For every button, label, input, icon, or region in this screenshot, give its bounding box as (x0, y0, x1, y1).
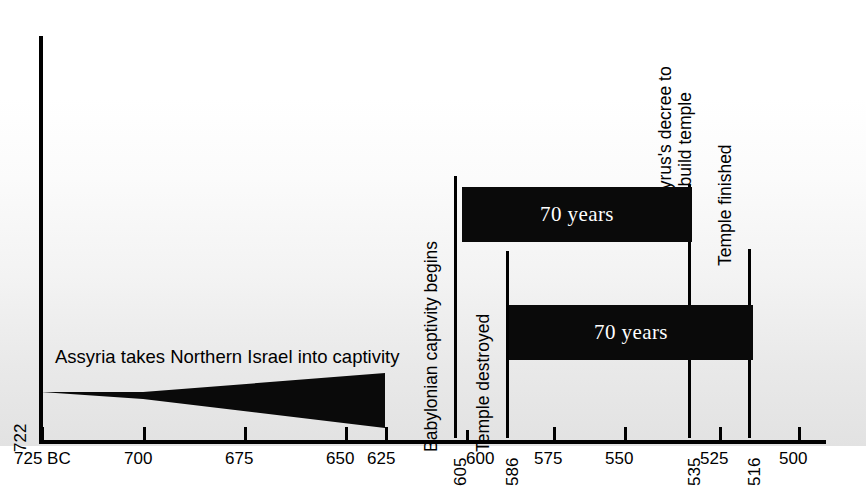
bar-label-captivity: 70 years (540, 202, 614, 227)
timeline-figure: Assyria takes Northern Israel into capti… (0, 0, 866, 492)
tick-label-575: 575 (534, 449, 562, 468)
tick-600 (466, 430, 469, 440)
tick-label-725: 725 BC (14, 449, 71, 468)
tick-675 (244, 427, 247, 440)
tick-label-525: 525 (700, 449, 728, 468)
tick-label-700: 700 (124, 449, 152, 468)
tick-650 (345, 427, 348, 440)
tick-label-650: 650 (326, 449, 354, 468)
tick-725 (41, 427, 44, 440)
event-label-temple-destroyed: Temple destroyed (473, 314, 493, 452)
bar-label-temple: 70 years (594, 320, 668, 345)
tick-525 (719, 427, 722, 440)
event-label-cyrus-decree-line1: Cyrus's decree to (655, 66, 675, 202)
event-label-temple-finished: Temple finished (715, 144, 735, 266)
tick-label-600: 600 (466, 449, 494, 468)
tick-500 (798, 427, 801, 440)
tick-label-625: 625 (367, 449, 395, 468)
tick-label-675: 675 (225, 449, 253, 468)
tick-label-535: 535 (685, 458, 704, 486)
tick-label-500: 500 (779, 449, 807, 468)
event-label-cyrus-decree-line2: rebuild temple (675, 92, 695, 202)
tick-label-550: 550 (605, 449, 633, 468)
tick-label-586: 586 (503, 458, 522, 486)
assyria-captivity-wedge (39, 370, 389, 432)
bar-temple-70-years: 70 years (509, 305, 753, 360)
tick-625 (385, 427, 388, 440)
tick-label-516: 516 (745, 458, 764, 486)
tick-550 (624, 427, 627, 440)
tick-label-605: 605 (451, 458, 470, 486)
tick-700 (143, 427, 146, 440)
tick-575 (553, 427, 556, 440)
event-label-babylonian-captivity-begins: Babylonian captivity begins (421, 241, 441, 452)
assyria-captivity-label: Assyria takes Northern Israel into capti… (55, 346, 399, 368)
assyria-start-year-label: 722 (11, 424, 31, 452)
event-line-babylonian-captivity-begins (454, 176, 457, 438)
bar-captivity-70-years: 70 years (462, 187, 692, 242)
